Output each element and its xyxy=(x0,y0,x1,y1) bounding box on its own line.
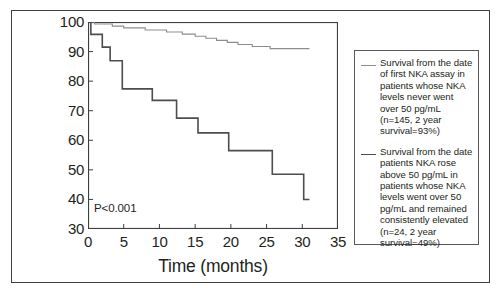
plot-area xyxy=(88,22,338,229)
legend-line-swatch-icon xyxy=(361,61,376,71)
figure-container: Survival probability (%) 304050607080901… xyxy=(0,0,501,293)
y-tick-label: 50 xyxy=(50,161,84,178)
x-tick-label: 15 xyxy=(180,233,210,250)
y-axis-tick-labels: 30405060708090100 xyxy=(44,22,84,229)
legend-label: Survival from the date patients NKA rose… xyxy=(380,146,473,249)
y-tick-label: 90 xyxy=(50,43,84,60)
x-tick-label: 35 xyxy=(323,233,353,250)
x-tick-label: 20 xyxy=(216,233,246,250)
y-tick-label: 60 xyxy=(50,131,84,148)
x-tick-label: 10 xyxy=(144,233,174,250)
x-tick-label: 0 xyxy=(73,233,103,250)
legend-entry: Survival from the date patients NKA rose… xyxy=(361,146,473,249)
chart-legend: Survival from the date of first NKA assa… xyxy=(354,50,479,245)
x-tick-label: 25 xyxy=(252,233,282,250)
y-tick-label: 80 xyxy=(50,72,84,89)
legend-entry: Survival from the date of first NKA assa… xyxy=(361,57,473,137)
legend-line-swatch-icon xyxy=(361,150,376,160)
p-value-annotation: P<0.001 xyxy=(94,202,136,214)
y-tick-label: 100 xyxy=(50,13,84,30)
plot-frame xyxy=(89,23,338,229)
x-axis-title: Time (months) xyxy=(88,256,338,277)
legend-label: Survival from the date of first NKA assa… xyxy=(380,57,473,137)
x-tick-label: 5 xyxy=(109,233,139,250)
y-tick-label: 70 xyxy=(50,102,84,119)
survival-curves-svg xyxy=(88,22,338,229)
y-tick-label: 40 xyxy=(50,190,84,207)
x-axis-tick-labels: 05101520253035 xyxy=(88,233,338,255)
x-tick-label: 30 xyxy=(287,233,317,250)
